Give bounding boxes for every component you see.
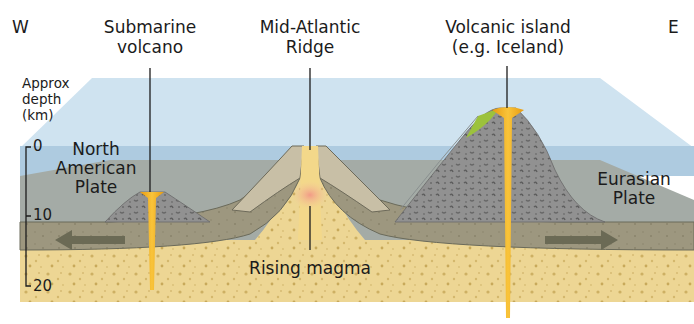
label-mid-atlantic-ridge: Mid-Atlantic Ridge (240, 17, 380, 57)
label-rising-magma: Rising magma (230, 258, 390, 278)
compass-east: E (668, 17, 679, 37)
label-submarine-volcano: Submarine volcano (88, 17, 212, 57)
depth-tick-10: 10 (33, 207, 52, 223)
label-volcanic-island: Volcanic island (e.g. Iceland) (424, 17, 592, 57)
depth-axis-title: Approx depth (km) (22, 75, 69, 123)
label-eurasian-plate: Eurasian Plate (584, 170, 684, 208)
depth-tick-0: 0 (33, 138, 43, 154)
depth-tick-20: 20 (33, 278, 52, 294)
ocean-surface (20, 78, 694, 148)
label-north-american-plate: North American Plate (50, 140, 142, 197)
hot-zone (292, 181, 328, 209)
compass-west: W (12, 17, 29, 37)
